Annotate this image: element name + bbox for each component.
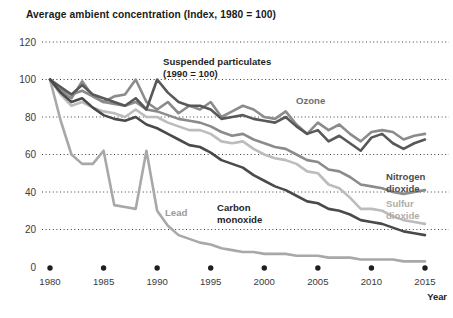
x-axis-tick-marker [47,265,52,270]
y-axis-tick-labels: 020406080100120 [19,37,36,273]
x-axis-tick-marker [315,265,320,270]
series-annotations: OzoneSuspended particulates(1990 = 100)N… [163,56,426,225]
x-axis-tick-marker [262,265,267,270]
series-label: Ozone [296,95,325,106]
series-label-line2: dioxide [386,183,420,194]
chart-container: Average ambient concentration (Index, 19… [0,0,453,318]
x-axis-tick-label: 1995 [200,276,221,287]
y-axis-tick-label: 20 [25,224,37,235]
y-axis-tick-label: 100 [19,74,36,85]
y-axis-tick-label: 40 [25,187,37,198]
series-label: Lead [165,207,188,218]
y-axis-tick-label: 80 [25,112,37,123]
series-line [50,80,425,194]
x-axis-title: Year [427,291,447,302]
x-axis-tick-marker [208,265,213,270]
x-axis-tick-label: 2010 [361,276,382,287]
series-label: Carbon [217,202,251,213]
x-axis-tick-marker [369,265,374,270]
series-line [50,80,425,142]
x-axis-tick-marker [422,265,427,270]
x-axis-tick-label: 1980 [39,276,60,287]
x-axis-tick-label: 2005 [307,276,328,287]
y-axis-tick-label: 60 [25,149,37,160]
y-axis-tick-label: 120 [19,37,36,48]
x-axis-tick-label: 2015 [414,276,435,287]
y-axis-tick-label: 0 [30,262,36,273]
series-label-line2: (1990 = 100) [163,68,218,79]
x-axis-tick-label: 2000 [254,276,275,287]
x-axis-tick-labels: 19801985199019952000200520102015 [39,265,435,287]
x-axis-tick-label: 1985 [93,276,114,287]
series-label: Suspended particulates [163,56,271,67]
series-label: Nitrogen [386,171,426,182]
x-axis-tick-marker [101,265,106,270]
series-label-line2: dioxide [386,210,420,221]
x-axis-tick-marker [154,265,159,270]
series-label-line2: monoxide [217,214,262,225]
series-line [50,80,425,262]
chart-plot-area: 020406080100120 198019851990199520002005… [0,0,453,318]
x-axis-tick-label: 1990 [146,276,167,287]
series-label: Sulfur [386,198,414,209]
data-series-lines [50,80,425,262]
